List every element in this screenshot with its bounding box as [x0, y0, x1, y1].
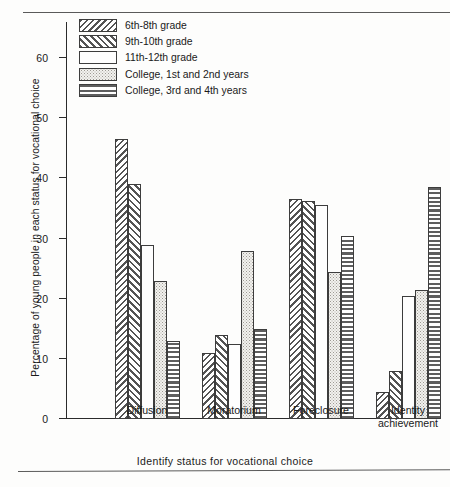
y-axis-tick: 10 — [59, 358, 66, 359]
legend-item: College, 1st and 2nd years — [79, 68, 249, 81]
legend-label: College, 1st and 2nd years — [125, 69, 249, 80]
y-axis-tick-label: 30 — [36, 233, 48, 245]
y-axis-tick: 40 — [59, 177, 66, 178]
bar — [289, 199, 302, 419]
bar — [415, 290, 428, 419]
y-axis-tick: 60 — [59, 57, 66, 58]
legend-label: 6th-8th grade — [125, 20, 187, 31]
bar — [115, 139, 128, 419]
legend-swatch — [79, 68, 117, 81]
x-axis-category-label: Moratorium — [207, 404, 261, 417]
y-axis-tick-label: 60 — [36, 52, 48, 64]
legend-swatch — [79, 51, 117, 64]
bar — [328, 272, 341, 419]
legend: 6th-8th grade9th-10th grade11th-12th gra… — [79, 19, 249, 97]
legend-swatch — [79, 35, 117, 48]
y-axis-tick-label: 50 — [36, 112, 48, 124]
bar — [302, 201, 315, 419]
legend-swatch — [79, 84, 117, 97]
legend-item: College, 3rd and 4th years — [79, 84, 249, 97]
y-axis-tick-label: 40 — [36, 172, 48, 184]
y-axis-tick-label: 10 — [36, 353, 48, 365]
bar-group — [289, 22, 354, 419]
y-axis-tick: 20 — [59, 298, 66, 299]
y-axis-tick: 0 — [59, 418, 66, 419]
legend-label: College, 3rd and 4th years — [125, 85, 247, 96]
legend-label: 11th-12th grade — [125, 52, 198, 63]
x-axis-category-label: Diffusion — [126, 404, 167, 417]
bar — [402, 296, 415, 419]
bar — [167, 341, 180, 419]
top-divider-rule — [23, 12, 450, 13]
x-axis-title: Identify status for vocational choice — [0, 455, 450, 467]
bar — [241, 251, 254, 419]
legend-item: 9th-10th grade — [79, 35, 249, 48]
bottom-divider-rule — [18, 469, 450, 472]
bar — [315, 205, 328, 419]
y-axis-line — [66, 22, 67, 419]
figure: Percentage of young people in each statu… — [0, 0, 450, 487]
bar-group — [376, 22, 441, 419]
y-axis-tick-label: 0 — [42, 413, 48, 425]
x-axis-category-label: Foreclosure — [293, 404, 349, 417]
y-axis-tick-label: 20 — [36, 293, 48, 305]
bar — [141, 245, 154, 419]
y-axis-tick: 30 — [59, 238, 66, 239]
bar — [428, 187, 441, 419]
x-axis-category-label: Identity achievement — [378, 404, 438, 429]
legend-item: 11th-12th grade — [79, 51, 249, 64]
legend-label: 9th-10th grade — [125, 36, 193, 47]
bar — [128, 184, 141, 419]
legend-swatch — [79, 19, 117, 32]
bar — [154, 281, 167, 419]
y-axis-tick: 50 — [59, 117, 66, 118]
bar — [341, 236, 354, 419]
legend-item: 6th-8th grade — [79, 19, 249, 32]
